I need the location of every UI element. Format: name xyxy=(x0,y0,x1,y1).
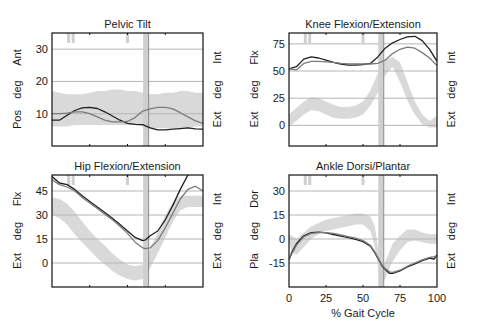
opposite-foot-event-marker xyxy=(72,33,75,43)
toe-off-band xyxy=(143,175,148,287)
y-tick-label: 50 xyxy=(273,65,285,77)
y-axis-label: Dor xyxy=(248,190,260,208)
y-tick-label: 0 xyxy=(279,233,285,245)
y-axis-label: deg xyxy=(11,222,23,240)
hip-flexion-chart: Hip Flexion/Extension0153045ExtdegFlxExt… xyxy=(11,156,223,287)
right-axis-label: Ext xyxy=(211,253,223,269)
y-tick-label: 0 xyxy=(279,119,285,131)
right-axis-label: Ext xyxy=(445,253,457,269)
normal-range-band xyxy=(289,57,437,128)
y-axis-label: Flx xyxy=(11,191,23,206)
toe-off-band xyxy=(143,33,148,146)
y-tick-label: 15 xyxy=(36,233,48,245)
plot-frame xyxy=(289,33,437,146)
toe-off-band xyxy=(378,33,383,146)
y-tick-label: 30 xyxy=(36,43,48,55)
chart-title: Knee Flexion/Extension xyxy=(305,18,421,30)
right-axis-label: Int xyxy=(445,193,457,205)
x-tick-label: 25 xyxy=(320,292,332,304)
y-axis-label: deg xyxy=(248,222,260,240)
right-axis-label: deg xyxy=(445,222,457,240)
y-tick-label: -15 xyxy=(269,257,285,269)
chart-title: Pelvic Tilt xyxy=(104,18,150,30)
right-axis-label: Int xyxy=(211,193,223,205)
toe-off-band xyxy=(378,175,383,287)
y-axis-label: deg xyxy=(248,80,260,98)
opposite-foot-event-marker xyxy=(308,175,311,185)
x-tick-label: 75 xyxy=(394,292,406,304)
y-tick-label: 30 xyxy=(36,209,48,221)
y-axis-label: Ext xyxy=(11,253,23,269)
chart-title: Hip Flexion/Extension xyxy=(74,160,180,172)
y-tick-label: 25 xyxy=(273,92,285,104)
opposite-foot-event-marker xyxy=(67,33,70,43)
opposite-foot-event-marker xyxy=(304,33,307,43)
knee-flexion-chart: Knee Flexion/Extension0255075ExtdegFlxEx… xyxy=(248,18,457,146)
y-tick-label: 30 xyxy=(273,185,285,197)
y-axis-label: Pla xyxy=(248,252,260,269)
y-tick-label: 20 xyxy=(36,75,48,87)
right-axis-label: deg xyxy=(211,80,223,98)
right-axis-label: Int xyxy=(445,51,457,63)
y-axis-label: deg xyxy=(11,80,23,98)
y-tick-label: 10 xyxy=(36,108,48,120)
opposite-foot-event-marker xyxy=(308,33,311,43)
right-curve xyxy=(289,47,437,70)
normal-range-band xyxy=(52,196,203,281)
y-tick-label: 0 xyxy=(42,257,48,269)
y-axis-label: Ext xyxy=(248,112,260,128)
chart-title: Ankle Dorsi/Plantar xyxy=(316,160,410,172)
x-tick-label: 50 xyxy=(357,292,369,304)
opposite-foot-event-marker xyxy=(67,175,70,185)
x-tick-label: 0 xyxy=(286,292,292,304)
normal-range-band xyxy=(52,90,203,129)
ankle-dorsi-chart: Ankle Dorsi/Plantar-1501530PladegDorExtd… xyxy=(248,160,457,319)
y-axis-label: Flx xyxy=(248,50,260,65)
opposite-foot-event-marker xyxy=(72,175,75,185)
right-axis-label: deg xyxy=(445,80,457,98)
pelvic-tilt-chart: Pelvic Tilt102030PosdegAntExtdegInt xyxy=(11,18,223,146)
right-axis-label: Ext xyxy=(211,112,223,128)
opposite-foot-event-marker xyxy=(304,175,307,185)
x-axis-label: % Gait Cycle xyxy=(331,307,395,319)
y-axis-label: Pos xyxy=(11,110,23,129)
y-tick-label: 75 xyxy=(273,38,285,50)
y-axis-label: Ant xyxy=(11,49,23,66)
right-axis-label: Int xyxy=(211,51,223,63)
y-tick-label: 15 xyxy=(273,209,285,221)
y-tick-label: 45 xyxy=(36,185,48,197)
right-axis-label: deg xyxy=(211,222,223,240)
normal-range-band xyxy=(289,213,437,283)
gait-analysis-figure: Pelvic Tilt102030PosdegAntExtdegIntKnee … xyxy=(0,0,478,331)
x-tick-label: 100 xyxy=(428,292,446,304)
right-axis-label: Ext xyxy=(445,112,457,128)
